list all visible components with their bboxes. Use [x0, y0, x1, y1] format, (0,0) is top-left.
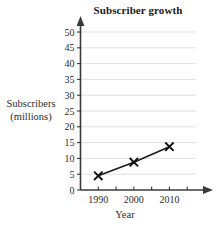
gridlines — [81, 32, 197, 174]
y-tick-label: 30 — [65, 90, 75, 101]
y-tick-label: 0 — [70, 185, 75, 196]
y-tick-label: 10 — [65, 153, 75, 164]
y-tick-label: 45 — [65, 42, 75, 53]
y-tick-label: 20 — [65, 121, 75, 132]
plot-area: 05101520253035404550 199020002010 — [0, 0, 221, 235]
y-tick-label: 35 — [65, 74, 75, 85]
y-axis-tick-labels: 05101520253035404550 — [65, 27, 75, 196]
data-point-marker — [94, 172, 102, 180]
y-axis-arrow-icon — [77, 16, 85, 26]
x-axis-arrow-icon — [203, 186, 213, 194]
data-point-marker — [130, 158, 138, 166]
y-tick-label: 40 — [65, 58, 75, 69]
y-tick-label: 25 — [65, 106, 75, 117]
y-tick-label: 15 — [65, 137, 75, 148]
y-tick-label: 5 — [70, 169, 75, 180]
x-tick-label: 1990 — [88, 194, 108, 205]
x-tick-label: 2000 — [124, 194, 144, 205]
data-point-marker — [165, 143, 173, 151]
chart-screenshot: Subscriber growth Subscribers (millions)… — [0, 0, 221, 235]
y-tick-label: 50 — [65, 27, 75, 38]
x-axis-tick-labels: 199020002010 — [88, 194, 179, 205]
x-tick-label: 2010 — [159, 194, 179, 205]
